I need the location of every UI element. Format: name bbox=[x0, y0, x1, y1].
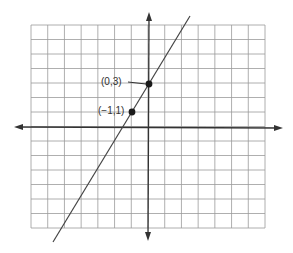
point-0-3 bbox=[146, 81, 153, 88]
point-label-0-3: (0,3) bbox=[101, 77, 122, 87]
point-label-neg1-1: (−1,1) bbox=[98, 106, 124, 116]
y-axis-up-arrow-icon bbox=[146, 12, 152, 21]
y-axis-down-arrow-icon bbox=[145, 232, 151, 241]
x-axis-left-arrow-icon bbox=[14, 124, 23, 130]
graphed-line bbox=[53, 16, 190, 242]
x-axis-right-arrow-icon bbox=[274, 125, 283, 131]
coordinate-plane: (0,3) (−1,1) bbox=[0, 0, 293, 253]
point-neg1-1 bbox=[129, 109, 136, 116]
graph-canvas bbox=[0, 0, 293, 253]
